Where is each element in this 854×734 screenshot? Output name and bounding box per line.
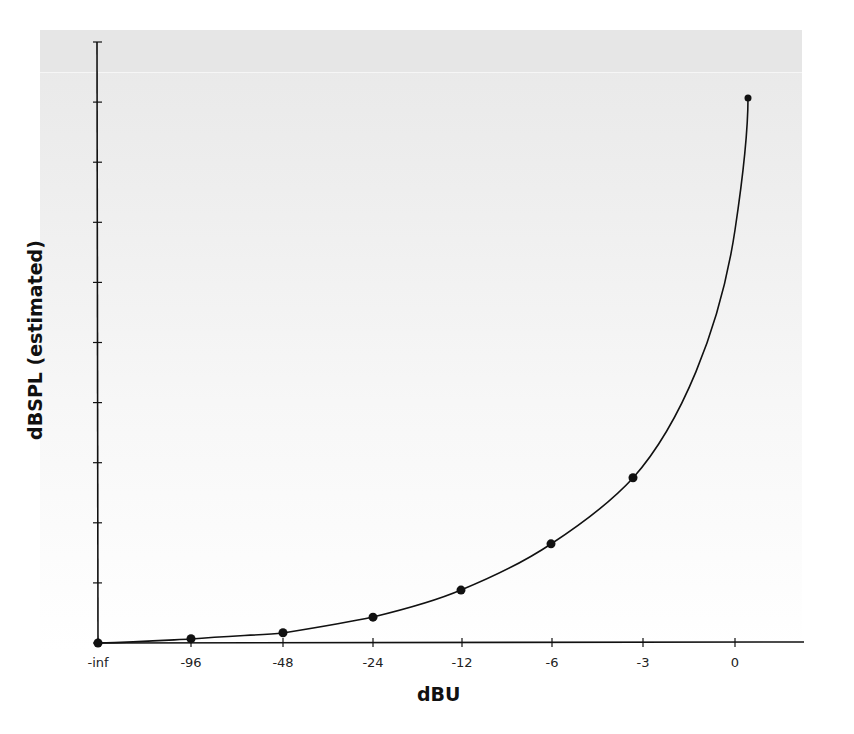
x-tick-label: -12	[451, 655, 472, 670]
x-tick-label: -48	[272, 655, 293, 670]
data-markers	[94, 94, 752, 647]
x-axis	[98, 642, 804, 643]
plot-area	[0, 0, 854, 734]
x-axis-label: dBU	[417, 683, 461, 705]
x-tick-label: 0	[731, 655, 739, 670]
x-tick-label: -24	[362, 655, 383, 670]
y-axis-label: dBSPL (estimated)	[24, 240, 46, 440]
x-tick-label: -6	[546, 655, 559, 670]
x-tick-label: -3	[637, 655, 650, 670]
x-tick-label: -96	[180, 655, 201, 670]
x-tick-label: -inf	[87, 655, 108, 670]
data-curve	[98, 98, 748, 643]
